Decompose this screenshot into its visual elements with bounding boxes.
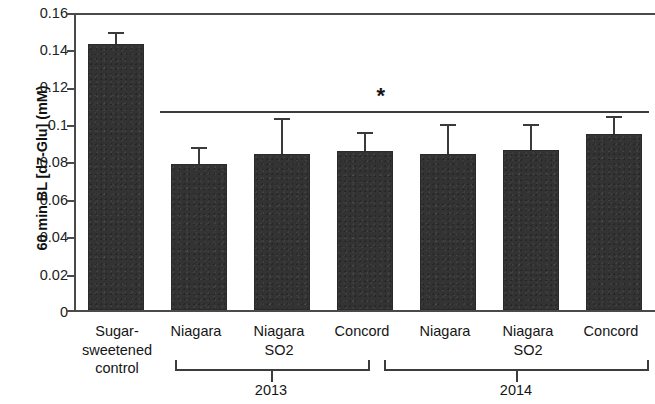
- x-tick-label-6: Concord: [556, 322, 655, 341]
- group-label-2014: 2014: [466, 382, 566, 398]
- y-axis-line: [74, 13, 76, 312]
- bar-5: [503, 150, 559, 310]
- y-tick-label: 0.12: [24, 80, 68, 95]
- y-axis-tick: [67, 13, 74, 15]
- significance-line: [160, 111, 649, 113]
- error-bar-0: [115, 34, 117, 44]
- error-bar-4: [447, 126, 449, 155]
- y-tick-label: 0.14: [24, 43, 68, 58]
- error-bar-2: [281, 120, 283, 153]
- bar-1: [171, 164, 227, 310]
- error-bar-cap-4: [440, 124, 456, 126]
- y-axis-tick: [67, 275, 74, 277]
- group-bracket-stem-2013: [271, 371, 273, 382]
- y-axis-tick: [67, 125, 74, 127]
- group-bracket-stem-2014: [516, 371, 518, 382]
- y-tick-label: 0.16: [24, 6, 68, 21]
- bar-6: [586, 134, 642, 310]
- y-axis-tick: [67, 310, 74, 312]
- group-bracket-2014: [384, 360, 649, 371]
- y-axis-tick: [67, 162, 74, 164]
- y-tick-label: 0.06: [24, 193, 68, 208]
- plot-top-border: [74, 13, 655, 15]
- bar-3: [337, 151, 393, 310]
- error-bar-cap-2: [274, 118, 290, 120]
- error-bar-cap-5: [523, 124, 539, 126]
- group-bracket-2013: [175, 360, 370, 371]
- y-tick-label: 0: [24, 305, 68, 320]
- error-bar-1: [198, 149, 200, 164]
- x-axis-line: [74, 310, 655, 312]
- error-bar-3: [364, 134, 366, 152]
- y-axis-tick: [67, 237, 74, 239]
- bar-4: [420, 154, 476, 310]
- bar-0: [88, 44, 144, 310]
- y-tick-label: 0.04: [24, 230, 68, 245]
- group-label-2013: 2013: [221, 382, 321, 398]
- error-bar-cap-6: [606, 116, 622, 118]
- y-axis-tick: [67, 50, 74, 52]
- bar-2: [254, 154, 310, 310]
- y-tick-label: 0.08: [24, 155, 68, 170]
- bar-chart-figure: 60 min BL [d7-Glu] (mM) 0.16 0.14 0.12 0…: [0, 0, 655, 404]
- y-tick-label: 0.02: [24, 268, 68, 283]
- error-bar-cap-3: [357, 132, 373, 134]
- error-bar-cap-0: [108, 32, 124, 34]
- y-axis-tick: [67, 88, 74, 90]
- y-tick-label: 0.1: [24, 118, 68, 133]
- error-bar-cap-1: [191, 147, 207, 149]
- plot-area: *: [74, 13, 655, 312]
- error-bar-6: [613, 118, 615, 135]
- significance-asterisk: *: [377, 85, 386, 107]
- error-bar-5: [530, 126, 532, 150]
- y-axis-tick: [67, 200, 74, 202]
